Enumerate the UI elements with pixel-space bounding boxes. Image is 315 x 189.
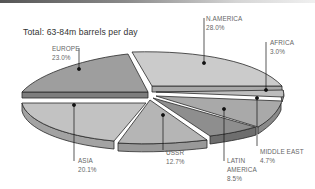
slice-europe-side xyxy=(22,92,148,98)
label-n-america-value: 28.0% xyxy=(206,23,242,32)
label-latin-america-name-2: AMERICA xyxy=(227,165,257,174)
label-latin-america-value: 8.5% xyxy=(227,174,257,183)
label-ussr: USSR 12.7% xyxy=(166,148,185,166)
label-latin-america-name-1: LATIN xyxy=(227,156,257,165)
label-n-america: N.AMERICA 28.0% xyxy=(206,14,242,32)
label-africa-value: 3.0% xyxy=(270,47,294,56)
label-asia: ASIA 20.1% xyxy=(78,156,97,174)
label-asia-value: 20.1% xyxy=(78,165,97,174)
label-middle-east-name: MIDDLE EAST xyxy=(260,147,304,156)
slice-n-america xyxy=(132,52,282,86)
label-europe-value: 23.0% xyxy=(52,53,80,62)
label-asia-name: ASIA xyxy=(78,156,97,165)
label-europe: EUROPE 23.0% xyxy=(52,44,80,62)
label-middle-east-value: 4.7% xyxy=(260,156,304,165)
label-latin-america: LATIN AMERICA 8.5% xyxy=(227,156,257,184)
label-europe-name: EUROPE xyxy=(52,44,80,53)
slice-europe xyxy=(22,54,148,92)
label-ussr-value: 12.7% xyxy=(166,157,185,166)
label-africa-name: AFRICA xyxy=(270,38,294,47)
label-n-america-name: N.AMERICA xyxy=(206,14,242,23)
label-africa: AFRICA 3.0% xyxy=(270,38,294,56)
label-middle-east: MIDDLE EAST 4.7% xyxy=(260,147,304,165)
label-ussr-name: USSR xyxy=(166,148,185,157)
